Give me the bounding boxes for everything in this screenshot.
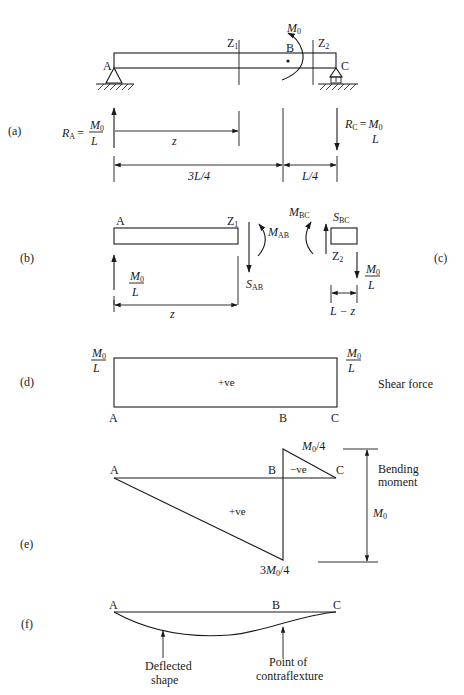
deflected-curve	[114, 612, 336, 636]
svg-text:M0: M0	[89, 118, 104, 133]
roller-support-icon	[318, 68, 358, 90]
panel-b: (b) A Z1 M0 L SAB MAB z	[20, 214, 289, 321]
bm-title-1: Bending	[378, 462, 419, 476]
panel-c: (c) SBC MBC Z2 M0 L L − z	[288, 205, 447, 318]
label-z2-c: Z2	[332, 249, 343, 264]
note-deflected-2: shape	[151, 673, 178, 687]
bm-top-value: M0/4	[301, 439, 325, 454]
label-sf-left: M0 L	[91, 346, 106, 375]
bm-title-2: moment	[378, 475, 418, 489]
panel-d-shear-force: (d) +ve Shear force M0 L M0 L A B C	[20, 346, 433, 425]
note-contraflexure-1: Point of	[269, 655, 307, 669]
pin-support-icon	[96, 68, 134, 90]
sf-point-b: B	[279, 411, 287, 425]
bm-point-c: C	[336, 463, 344, 477]
panel-tag-c: (c)	[434, 251, 447, 265]
label-force-b: M0 L	[129, 269, 144, 299]
panel-f-deflected-shape: (f) A B C Deflected shape Point of contr…	[21, 598, 341, 687]
panel-a: (a) Z1 Z2	[8, 21, 382, 183]
bm-sign-positive: +ve	[229, 505, 246, 517]
beam-diagram: (a) Z1 Z2	[0, 0, 464, 695]
label-force-c: M0 L	[365, 262, 380, 292]
label-sbc: SBC	[333, 210, 350, 225]
dim-z-label: z	[171, 134, 177, 148]
moment-bc-arrow-icon	[306, 222, 313, 254]
note-deflected-1: Deflected	[145, 659, 192, 673]
def-point-a: A	[109, 598, 118, 612]
sf-point-c: C	[331, 411, 339, 425]
bm-sign-negative: −ve	[290, 463, 307, 475]
dim-3l4-label: 3L/4	[187, 169, 210, 183]
shear-force-title: Shear force	[378, 377, 433, 391]
svg-text:M0: M0	[365, 262, 380, 277]
point-a: A	[103, 59, 112, 73]
label-z2: Z2	[318, 36, 329, 51]
svg-text:L: L	[367, 278, 375, 292]
note-contraflexure-2: contraflexture	[256, 669, 323, 683]
free-body-ab	[114, 228, 238, 244]
panel-tag-a: (a)	[8, 124, 21, 138]
panel-tag-b: (b)	[20, 251, 34, 265]
free-body-bc	[331, 228, 357, 244]
label-z1-b: Z1	[227, 214, 238, 229]
label-reaction-c: RC=M0 L	[344, 117, 382, 146]
bm-bottom-value: 3M0/4	[260, 563, 289, 578]
def-point-b: B	[272, 598, 280, 612]
label-reaction-a: RA= M0 L	[61, 118, 104, 148]
panel-tag-d: (d)	[20, 375, 34, 389]
label-mbc: MBC	[288, 205, 310, 220]
bm-point-a: A	[110, 463, 119, 477]
svg-text:L: L	[371, 132, 379, 146]
svg-text:L: L	[347, 361, 355, 375]
moment-ab-arrow-icon	[258, 224, 265, 256]
panel-tag-e: (e)	[20, 537, 33, 551]
svg-text:L: L	[92, 361, 100, 375]
svg-text:M0: M0	[91, 346, 106, 361]
label-z1: Z1	[227, 36, 238, 51]
point-b: B	[286, 41, 294, 55]
bm-range-label: M0	[372, 506, 387, 521]
svg-text:L: L	[131, 285, 139, 299]
panel-tag-f: (f)	[21, 617, 33, 631]
svg-text:RC=M0: RC=M0	[344, 117, 382, 132]
sign-positive: +ve	[218, 376, 235, 388]
label-m0: M0	[286, 21, 301, 36]
dim-z-b-label: z	[169, 307, 175, 321]
label-sab: SAB	[246, 277, 263, 292]
dim-l4-label: L/4	[301, 169, 318, 183]
dim-lz-label: L − z	[329, 304, 356, 318]
sf-point-a: A	[109, 411, 118, 425]
svg-text:L: L	[90, 134, 98, 148]
point-c: C	[341, 59, 349, 73]
svg-text:M0: M0	[129, 269, 144, 284]
panel-e-bending-moment: (e) A B C +ve −ve M0/4 3M0/4 M0 Bending …	[20, 439, 419, 578]
svg-text:RA=: RA=	[61, 126, 84, 141]
point-b-dot	[286, 59, 289, 62]
bm-point-b: B	[268, 463, 276, 477]
label-a: A	[116, 214, 125, 228]
label-mab: MAB	[267, 225, 289, 240]
svg-text:M0: M0	[346, 346, 361, 361]
def-point-c: C	[333, 598, 341, 612]
label-sf-right: M0 L	[346, 346, 361, 375]
